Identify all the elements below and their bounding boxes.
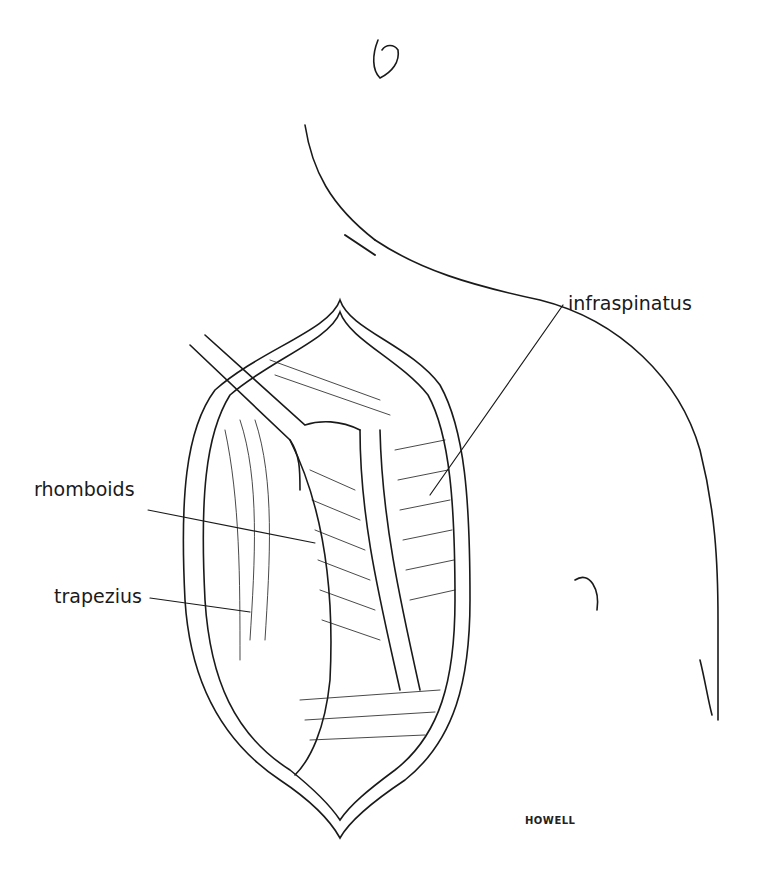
illustration: infraspinatus rhomboids trapezius HOWELL [0,0,774,879]
artist-signature: HOWELL [525,815,575,826]
anatomy-drawing [0,0,774,879]
label-trapezius: trapezius [54,585,142,607]
label-rhomboids: rhomboids [34,478,135,500]
label-infraspinatus: infraspinatus [568,292,692,314]
